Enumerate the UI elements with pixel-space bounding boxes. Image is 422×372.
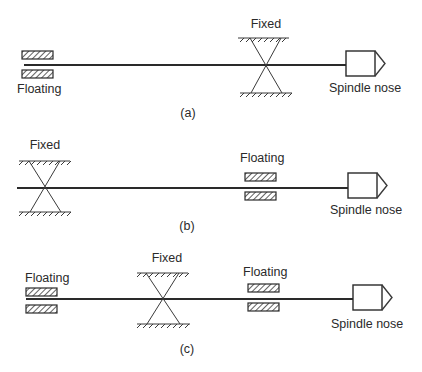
- spindle-nose-icon: [348, 173, 387, 198]
- spindle-nose-label: Spindle nose: [329, 81, 401, 95]
- floating-bearing-icon: [245, 173, 276, 200]
- fixed-bearing-icon: [238, 38, 292, 97]
- panel-c: Floating: [25, 251, 403, 356]
- fixed-label: Fixed: [251, 17, 282, 31]
- floating-label: Floating: [17, 82, 62, 96]
- floating-label-right: Floating: [243, 265, 288, 279]
- spindle-nose-icon: [346, 51, 385, 76]
- panel-b: Fixed Floating Spindle nose (b): [17, 138, 402, 233]
- fixed-label: Fixed: [152, 251, 183, 265]
- floating-label-left: Floating: [25, 271, 70, 285]
- spindle-nose-icon: [353, 285, 392, 310]
- floating-label: Floating: [240, 151, 285, 165]
- panel-caption: (a): [180, 106, 195, 120]
- floating-bearing-icon: [26, 288, 57, 313]
- spindle-nose-label: Spindle nose: [331, 317, 403, 331]
- panel-caption: (c): [180, 342, 195, 356]
- bearing-arrangement-diagram: Floating: [0, 0, 422, 372]
- panel-a: Floating: [17, 17, 401, 120]
- floating-bearing-icon: [248, 284, 279, 311]
- fixed-bearing-icon: [137, 273, 190, 328]
- panel-caption: (b): [179, 219, 194, 233]
- fixed-label: Fixed: [30, 138, 61, 152]
- spindle-nose-label: Spindle nose: [330, 203, 402, 217]
